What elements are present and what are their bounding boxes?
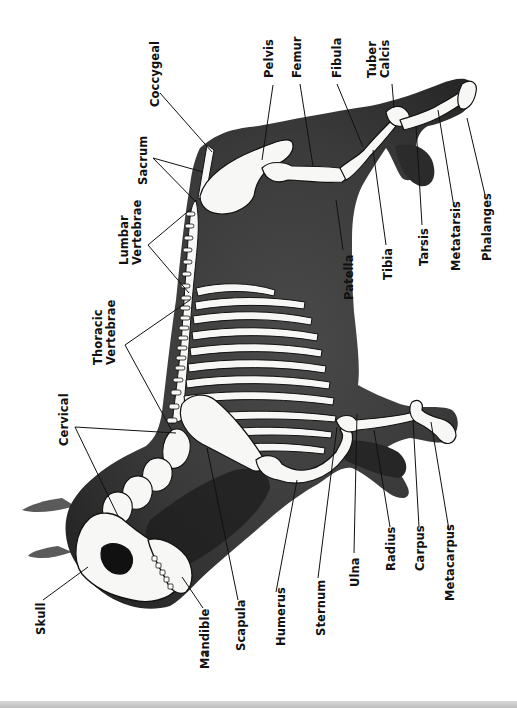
label-tibia: Tibia <box>382 248 395 280</box>
label-text: Sacrum <box>137 136 150 185</box>
label-phalanges: Phalanges <box>481 193 494 261</box>
label-text: Carpus <box>414 525 427 571</box>
page-number: 2 <box>200 650 210 656</box>
label-thoracic-vertebrae: ThoracicVertebrae <box>92 300 118 365</box>
label-text: Humerus <box>275 587 288 646</box>
label-scapula: Scapula <box>235 599 248 651</box>
label-mandible: Mandible <box>199 609 212 669</box>
label-pelvis: Pelvis <box>263 39 276 78</box>
label-text: Mandible <box>199 609 212 669</box>
label-patella: Patella <box>343 254 356 300</box>
label-sternum: Sternum <box>315 580 328 636</box>
label-text: Metacarpus <box>444 524 457 601</box>
label-skull: Skull <box>35 602 48 635</box>
label-text: Tarsis <box>418 228 431 266</box>
label-text: Vertebrae <box>105 300 118 365</box>
label-femur: Femur <box>291 36 304 78</box>
label-text: Vertebrae <box>131 200 144 265</box>
label-text: Scapula <box>235 599 248 651</box>
label-metacarpus: Metacarpus <box>444 524 457 601</box>
label-text: Fibula <box>331 37 344 78</box>
label-carpus: Carpus <box>414 525 427 571</box>
label-text: Radius <box>385 527 398 571</box>
label-humerus: Humerus <box>275 587 288 646</box>
label-text: Coccygeal <box>149 41 162 107</box>
leader-line-metatarsis <box>438 110 454 207</box>
label-text: Ulna <box>349 557 362 587</box>
label-text: Femur <box>291 36 304 78</box>
label-text: Sternum <box>315 580 328 636</box>
label-text: Phalanges <box>481 193 494 261</box>
label-cervical: Cervical <box>58 393 71 446</box>
label-text: Patella <box>343 254 356 300</box>
leader-line-skull <box>43 567 88 600</box>
label-fibula: Fibula <box>331 37 344 78</box>
label-radius: Radius <box>385 527 398 571</box>
label-tarsis: Tarsis <box>418 228 431 266</box>
leader-line-sacrum <box>153 158 197 203</box>
label-text: Calcis <box>379 40 392 78</box>
label-text: Pelvis <box>263 39 276 78</box>
label-text: Tibia <box>382 248 395 280</box>
leader-line-tibia <box>373 150 386 245</box>
anatomy-illustration <box>0 0 517 708</box>
label-metatarsis: Metatarsis <box>450 201 463 271</box>
label-text: Cervical <box>58 393 71 446</box>
label-sacrum: Sacrum <box>137 136 150 185</box>
leader-line-phalanges <box>467 118 485 195</box>
label-text: Metatarsis <box>450 201 463 271</box>
scan-edge-strip <box>0 701 517 708</box>
label-text: Skull <box>35 602 48 635</box>
label-lumbar-vertebrae: LumbarVertebrae <box>118 200 144 265</box>
label-coccygeal: Coccygeal <box>149 41 162 107</box>
label-tuber-calcis: TuberCalcis <box>366 40 392 78</box>
cow-skeleton-diagram: CoccygealSacrumLumbarVertebraeThoracicVe… <box>0 0 517 708</box>
label-ulna: Ulna <box>349 557 362 587</box>
leader-line-coccygeal <box>160 93 212 152</box>
